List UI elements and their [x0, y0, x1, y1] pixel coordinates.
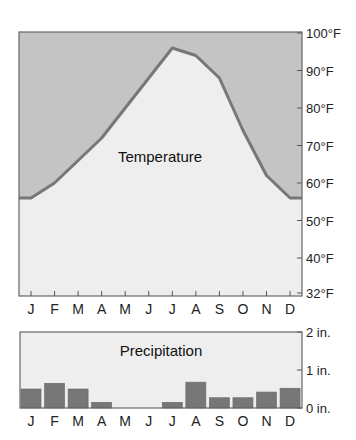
month-label: M: [72, 413, 84, 429]
month-label: J: [169, 413, 176, 429]
temperature-y-axis: 32°F40°F50°F60°F70°F80°F90°F100°F: [297, 26, 341, 301]
month-label: A: [191, 413, 201, 429]
y-tick-label: 80°F: [306, 101, 334, 116]
y-tick-label: 50°F: [306, 214, 334, 229]
y-tick-label: 2 in.: [306, 325, 331, 340]
month-label: A: [97, 413, 107, 429]
y-tick-label: 60°F: [306, 176, 334, 191]
month-label: M: [72, 301, 84, 317]
climate-chart: 32°F40°F50°F60°F70°F80°F90°F100°F JFMAMJ…: [0, 0, 356, 440]
month-label: N: [261, 301, 271, 317]
precipitation-bar: [257, 392, 277, 408]
precipitation-bar: [68, 389, 88, 408]
month-label: J: [28, 301, 35, 317]
month-label: D: [285, 301, 295, 317]
precipitation-title: Precipitation: [120, 342, 203, 359]
month-label: J: [169, 301, 176, 317]
y-tick-label: 0 in.: [306, 401, 331, 416]
temperature-chart: 32°F40°F50°F60°F70°F80°F90°F100°F JFMAMJ…: [19, 26, 341, 317]
month-label: M: [119, 301, 131, 317]
month-label: M: [119, 413, 131, 429]
precipitation-bar: [45, 383, 65, 408]
month-label: F: [50, 301, 59, 317]
month-label: S: [215, 301, 224, 317]
precipitation-bar: [280, 388, 300, 408]
month-label: O: [238, 413, 249, 429]
y-tick-label: 100°F: [306, 26, 341, 41]
month-label: D: [285, 413, 295, 429]
month-label: F: [50, 413, 59, 429]
y-tick-label: 70°F: [306, 139, 334, 154]
precipitation-bar: [92, 402, 112, 408]
precipitation-bar: [21, 389, 41, 408]
precipitation-bar: [186, 382, 206, 408]
precipitation-bar: [209, 398, 229, 408]
precipitation-bar: [162, 402, 182, 408]
y-tick-label: 1 in.: [306, 363, 331, 378]
precipitation-x-axis: JFMAMJJASOND: [28, 413, 296, 429]
y-tick-label: 40°F: [306, 251, 334, 266]
month-label: J: [28, 413, 35, 429]
y-tick-label: 32°F: [306, 286, 334, 301]
month-label: A: [191, 301, 201, 317]
month-label: N: [261, 413, 271, 429]
y-tick-label: 90°F: [306, 64, 334, 79]
month-label: J: [145, 301, 152, 317]
month-label: S: [215, 413, 224, 429]
month-label: A: [97, 301, 107, 317]
precipitation-chart: 0 in.1 in.2 in. JFMAMJJASOND Precipitati…: [20, 325, 331, 429]
month-label: J: [145, 413, 152, 429]
month-label: O: [238, 301, 249, 317]
precipitation-bar: [233, 398, 253, 408]
temperature-title: Temperature: [118, 148, 202, 165]
